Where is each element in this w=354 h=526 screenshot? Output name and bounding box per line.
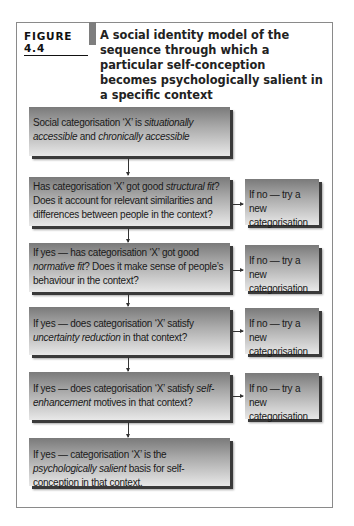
down-arrow — [128, 228, 129, 242]
step-box-normative-fit: If yes — has categorisation ‘X’ got good… — [29, 243, 230, 292]
step-box-uncertainty-reduction: If yes — does categorisation ‘X’ satisfy… — [29, 307, 230, 355]
no-branch-box: If no — try a new categorisation — [245, 245, 319, 291]
step-box-structural-fit: Has categorisation ‘X’ got good structur… — [29, 177, 230, 226]
step-text: Social categorisation ‘X’ is situational… — [33, 116, 226, 144]
right-arrow — [233, 396, 243, 397]
figure-label: FIGURE 4.4 — [24, 30, 88, 56]
no-branch-box: If no — try a new categorisation — [245, 373, 319, 419]
no-branch-box: If no — try a new categorisation — [245, 308, 319, 354]
step-text: If yes — has categorisation ‘X’ got good… — [33, 246, 226, 288]
right-arrow — [233, 331, 243, 332]
step-text: If yes — categorisation ‘X’ is the psych… — [33, 448, 226, 490]
down-arrow — [128, 294, 129, 306]
step-box-self-enhancement: If yes — does categorisation ‘X’ satisfy… — [29, 372, 230, 420]
no-branch-text: If no — try a new categorisation — [249, 382, 315, 424]
step-text: Has categorisation ‘X’ got good structur… — [33, 180, 226, 222]
no-branch-box: If no — try a new categorisation — [245, 179, 319, 225]
figure-label-bar — [89, 22, 96, 45]
no-branch-text: If no — try a new categorisation — [249, 317, 315, 359]
step-box-accessibility: Social categorisation ‘X’ is situational… — [29, 107, 230, 156]
right-arrow — [233, 270, 243, 271]
step-box-psychological-salience: If yes — categorisation ‘X’ is the psych… — [29, 438, 230, 486]
down-arrow — [128, 357, 129, 371]
no-branch-text: If no — try a new categorisation — [249, 254, 315, 296]
step-text: If yes — does categorisation ‘X’ satisfy… — [33, 382, 226, 410]
figure-title: A social identity model of the sequence … — [100, 28, 325, 103]
down-arrow — [128, 158, 129, 175]
no-branch-text: If no — try a new categorisation — [249, 188, 315, 230]
step-text: If yes — does categorisation ‘X’ satisfy… — [33, 317, 226, 345]
down-arrow — [128, 422, 129, 437]
right-arrow — [233, 204, 243, 205]
